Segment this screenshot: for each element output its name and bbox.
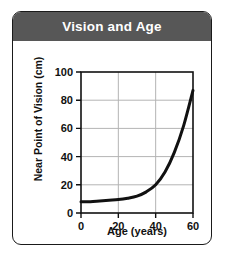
plot-background (81, 72, 193, 213)
svg-text:20: 20 (61, 179, 73, 191)
chart-area: Near Point of Vision (cm) Age (years) 02… (13, 41, 211, 244)
svg-text:40: 40 (150, 220, 162, 232)
svg-text:40: 40 (61, 151, 73, 163)
svg-text:0: 0 (67, 207, 73, 219)
y-axis-ticks: 020406080100 (55, 66, 81, 219)
svg-text:60: 60 (187, 220, 199, 232)
chart-title: Vision and Age (62, 20, 162, 34)
figure-frame: Vision and Age Near Point of Vision (cm)… (12, 11, 212, 245)
x-axis-ticks: 0204060 (78, 213, 199, 232)
svg-text:20: 20 (112, 220, 124, 232)
svg-text:0: 0 (78, 220, 84, 232)
svg-text:60: 60 (61, 122, 73, 134)
svg-text:80: 80 (61, 94, 73, 106)
line-chart-plot: 020406080100 0204060 (13, 41, 211, 244)
chart-title-band: Vision and Age (13, 12, 211, 41)
svg-text:100: 100 (55, 66, 73, 78)
